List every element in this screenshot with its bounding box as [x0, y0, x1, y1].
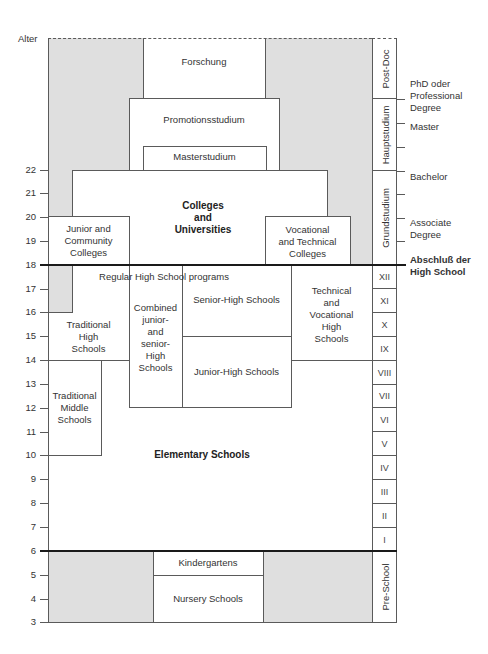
stage-pre-school: Pre-School [372, 551, 397, 623]
axis-tick [40, 170, 48, 171]
axis-tick [40, 384, 48, 385]
nursery-label: Nursery Schools [153, 593, 263, 605]
axis-label: 14 [14, 355, 36, 365]
degree-tick [397, 147, 405, 148]
axis-label: 3 [14, 617, 36, 627]
axis-label: 7 [14, 522, 36, 532]
school-entry-line [40, 550, 397, 552]
axis-tick [40, 408, 48, 409]
gray-region [48, 38, 143, 98]
doctoral-label: Promotionsstudium [129, 114, 279, 126]
senior-high-label: Senior-High Schools [182, 294, 291, 306]
axis-tick [40, 193, 48, 194]
technical-vocational-high-label: Technical and Vocational High Schools [291, 285, 372, 345]
degree-tick [397, 194, 405, 195]
axis-tick [40, 336, 48, 337]
vocational-technical-colleges-label: Vocational and Technical Colleges [265, 224, 350, 260]
degree-tick [397, 123, 405, 124]
grade-cell: IX [372, 336, 397, 361]
axis-label: 18 [14, 260, 36, 270]
axis-label: 17 [14, 284, 36, 294]
junior-high-label: Junior-High Schools [182, 366, 291, 378]
degree-master: Master [410, 121, 439, 133]
axis-tick [40, 241, 48, 242]
axis-label: 19 [14, 236, 36, 246]
degree-high-school: Abschluß der High School [410, 254, 471, 278]
junior-community-label: Junior and Community Colleges [48, 223, 129, 259]
stage-hauptstudium: Hauptstudium [372, 98, 397, 171]
axis-tick [40, 527, 48, 528]
grade-cell: III [372, 479, 397, 504]
research-box [143, 38, 266, 99]
axis-label: 16 [14, 307, 36, 317]
axis-label: 15 [14, 331, 36, 341]
axis-tick [40, 360, 48, 361]
axis-tick [40, 432, 48, 433]
gray-region [49, 266, 73, 313]
kindergartens-label: Kindergartens [153, 557, 263, 569]
degree-tick [397, 241, 405, 242]
grade-cell: VII [372, 384, 397, 408]
axis-label: 21 [14, 188, 36, 198]
colleges-universities-label: Colleges and Universities [140, 200, 266, 236]
degree-bachelor: Bachelor [410, 171, 448, 183]
education-system-diagram: Alter Post-Doc Hauptstudium Grundstudium… [0, 0, 488, 654]
masters-label: Masterstudium [143, 151, 266, 163]
high-school-graduation-line [40, 264, 406, 266]
axis-tick [40, 479, 48, 480]
bottom-line [40, 622, 372, 623]
gray-region [279, 98, 372, 170]
stage-grundstudium: Grundstudium [372, 170, 397, 266]
elementary-label: Elementary Schools [110, 449, 294, 461]
traditional-middle-label: Traditional Middle Schools [48, 390, 101, 426]
stage-post-doc: Post-Doc [372, 38, 397, 99]
grade-cell: I [372, 527, 397, 552]
axis-tick [40, 217, 48, 218]
combined-high-label: Combined junior- and senior- High School… [129, 302, 182, 374]
traditional-high-label: Traditional High Schools [48, 319, 129, 355]
axis-tick [40, 455, 48, 456]
axis-label: 10 [14, 450, 36, 460]
axis-label: 11 [14, 427, 36, 437]
research-label: Forschung [143, 56, 265, 68]
grade-cell: II [372, 503, 397, 528]
top-dashed-line [48, 38, 397, 39]
degree-tick [397, 99, 405, 100]
grade-cell: VI [372, 407, 397, 432]
degree-phd: PhD oder Professional Degree [410, 78, 462, 114]
axis-title: Alter [18, 33, 38, 44]
axis-label: 8 [14, 498, 36, 508]
grade-cell: X [372, 312, 397, 337]
degree-associate: Associate Degree [410, 217, 451, 241]
axis-label: 13 [14, 379, 36, 389]
axis-tick [40, 575, 48, 576]
axis-label: 20 [14, 212, 36, 222]
grade-cell: XI [372, 288, 397, 313]
axis-label: 6 [14, 546, 36, 556]
axis-tick [40, 503, 48, 504]
axis-label: 22 [14, 165, 36, 175]
axis-tick [40, 312, 48, 313]
grade-cell: V [372, 431, 397, 456]
gray-region [265, 38, 372, 98]
gray-region [327, 170, 372, 216]
grade-cell: XII [372, 265, 397, 289]
axis-tick [40, 289, 48, 290]
axis-label: 5 [14, 570, 36, 580]
regular-programs-label: Regular High School programs [90, 271, 238, 283]
degree-tick [397, 171, 405, 172]
axis-label: 4 [14, 594, 36, 604]
grade-cell: VIII [372, 360, 397, 385]
axis-label: 12 [14, 403, 36, 413]
grade-cell: IV [372, 455, 397, 480]
axis-label: 9 [14, 474, 36, 484]
gray-region [350, 216, 372, 265]
axis-tick [40, 599, 48, 600]
gray-region [48, 98, 129, 170]
gray-region [48, 170, 72, 216]
degree-tick [397, 218, 405, 219]
